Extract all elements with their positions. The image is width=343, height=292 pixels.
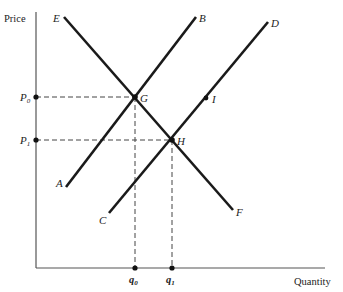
supply-demand-diagram: Price Quantity E F A B C D G H I P0 P1 q… [0, 0, 343, 292]
p0-axis-dot [33, 94, 38, 99]
label-a: A [55, 177, 63, 189]
label-p0: P0 [19, 91, 31, 105]
label-q0: q0 [129, 274, 138, 287]
point-g-dot [132, 94, 138, 100]
label-f: F [235, 206, 243, 218]
demand-curve-ef [64, 17, 233, 210]
label-b: B [199, 12, 206, 24]
label-g: G [140, 92, 148, 104]
q0-axis-dot [132, 265, 137, 270]
q1-axis-dot [169, 265, 174, 270]
y-axis-label: Price [4, 13, 26, 24]
label-i: I [211, 93, 217, 105]
label-e: E [52, 12, 60, 24]
label-q1: q1 [166, 274, 175, 287]
label-c: C [99, 214, 107, 226]
p1-axis-dot [33, 137, 38, 142]
point-h-dot [169, 137, 175, 143]
supply-curve-cd [109, 22, 268, 213]
x-axis-label: Quantity [294, 276, 331, 287]
label-h: H [176, 135, 186, 147]
label-p1: P1 [19, 134, 30, 148]
label-d: D [270, 17, 279, 29]
point-i-dot [204, 96, 209, 101]
